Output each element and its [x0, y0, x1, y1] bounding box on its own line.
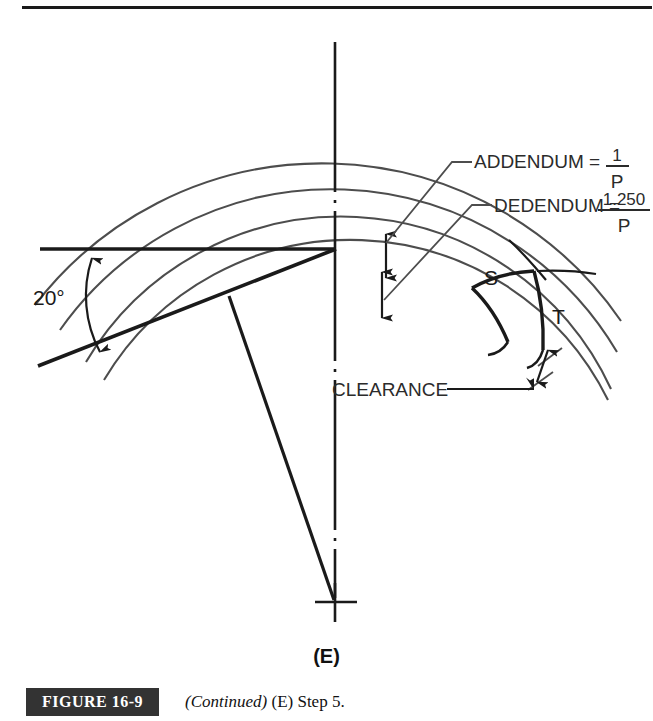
radial-center-line	[229, 296, 334, 600]
addendum-numerator: 1	[612, 146, 621, 165]
tooth-thickness-label: S	[484, 266, 498, 289]
figure-caption-row: FIGURE 16-9 (Continued) (E) Step 5.	[26, 688, 345, 716]
caption-rest: (E) Step 5.	[267, 692, 344, 711]
clearance-dimension: CLEARANCE	[332, 348, 562, 400]
root-circle-arc	[86, 217, 611, 389]
dedendum-label: DEDENDUM =	[494, 195, 620, 216]
clearance-label: CLEARANCE	[332, 379, 448, 400]
caption-continued-word: (Continued)	[185, 692, 267, 711]
tooth-root-fillet-left	[488, 342, 508, 355]
center-cross-mark	[315, 583, 357, 622]
dedendum-denominator: P	[618, 215, 631, 236]
tooth-construction-arc-right	[537, 271, 596, 274]
figure-number-tag: FIGURE 16-9	[26, 688, 159, 716]
addendum-leader-line	[386, 162, 472, 243]
pressure-angle-dimension	[86, 258, 100, 352]
addendum-label: ADDENDUM =	[474, 151, 600, 172]
panel-letter: (E)	[0, 645, 653, 668]
addendum-label-group: ADDENDUM = 1 P	[474, 146, 629, 192]
dedendum-label-group: DEDENDUM = 1.250 P	[494, 190, 650, 236]
tooth-left-flank	[472, 288, 508, 342]
dedendum-numerator: 1.250	[603, 190, 646, 209]
addendum-circle-arc	[35, 163, 621, 321]
gear-tooth-diagram: 20° ADDENDUM = 1 P DEDENDUM = 1.250 P	[0, 0, 653, 645]
addendum-denominator: P	[611, 171, 624, 192]
pressure-angle-label: 20°	[33, 286, 65, 309]
figure-page: 20° ADDENDUM = 1 P DEDENDUM = 1.250 P	[0, 0, 653, 721]
space-width-label: T	[552, 305, 565, 328]
figure-caption-text: (Continued) (E) Step 5.	[185, 692, 345, 712]
tooth-root-fillet-right	[527, 350, 543, 368]
pressure-angle-line	[38, 249, 336, 366]
